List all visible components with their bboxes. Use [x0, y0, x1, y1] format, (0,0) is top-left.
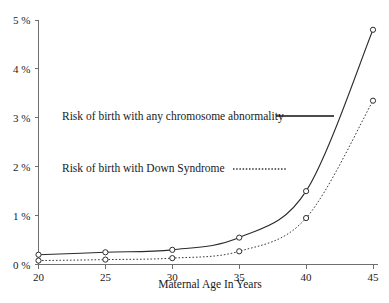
data-point-marker [237, 249, 242, 254]
series-line-1 [39, 101, 374, 261]
y-tick-label: 1 % [13, 210, 30, 222]
data-point-marker [103, 257, 108, 262]
x-tick-label: 25 [100, 271, 112, 283]
data-point-marker [170, 256, 175, 261]
legend-label-1: Risk of birth with Down Syndrome [62, 162, 225, 175]
data-point-marker [103, 250, 108, 255]
chart-container: 0 %1 %2 %3 %4 %5 % 202530354045 Maternal… [0, 0, 389, 303]
x-tick-label: 45 [368, 271, 380, 283]
series-line-0 [39, 30, 374, 255]
y-tick-label: 5 % [13, 14, 30, 26]
x-axis: 202530354045 Maternal Age In Years [33, 265, 379, 292]
y-tick-label: 4 % [13, 63, 30, 75]
line-chart: 0 %1 %2 %3 %4 %5 % 202530354045 Maternal… [0, 0, 389, 303]
data-series-layer [36, 27, 376, 263]
x-axis-title: Maternal Age In Years [158, 278, 262, 291]
data-point-marker [370, 98, 375, 103]
data-point-marker [304, 215, 309, 220]
data-point-marker [370, 27, 375, 32]
data-point-marker [170, 247, 175, 252]
y-axis: 0 %1 %2 %3 %4 %5 % [13, 14, 38, 271]
data-point-marker [36, 252, 41, 257]
x-tick-label: 20 [33, 271, 45, 283]
series-down-syndrome [36, 98, 376, 263]
y-axis-ticks: 0 %1 %2 %3 %4 %5 % [13, 14, 38, 271]
data-point-marker [36, 258, 41, 263]
series-chromosome-abnormality [36, 27, 376, 257]
y-tick-label: 2 % [13, 161, 30, 173]
y-tick-label: 0 % [13, 259, 30, 271]
data-point-marker [237, 235, 242, 240]
legend-label-0: Risk of birth with any chromosome abnorm… [62, 110, 284, 123]
y-tick-label: 3 % [13, 112, 30, 124]
x-tick-label: 40 [301, 271, 313, 283]
data-point-marker [304, 189, 309, 194]
chart-legend: Risk of birth with any chromosome abnorm… [62, 110, 334, 175]
